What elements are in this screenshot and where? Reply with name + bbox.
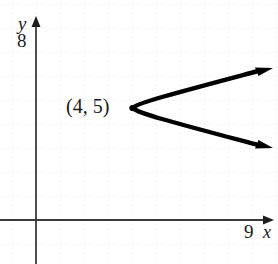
- y-axis-max-tick-label: 8: [17, 31, 27, 50]
- parabola-figure: y 8 9 x (4, 5): [0, 0, 278, 264]
- x-axis-max-tick-label: 9: [244, 222, 254, 241]
- vertex-dot: [129, 105, 135, 111]
- grid-lines: [0, 0, 278, 264]
- vertex-point-label: (4, 5): [66, 96, 109, 116]
- x-axis-label: x: [263, 223, 271, 241]
- coordinate-plane: [0, 0, 278, 264]
